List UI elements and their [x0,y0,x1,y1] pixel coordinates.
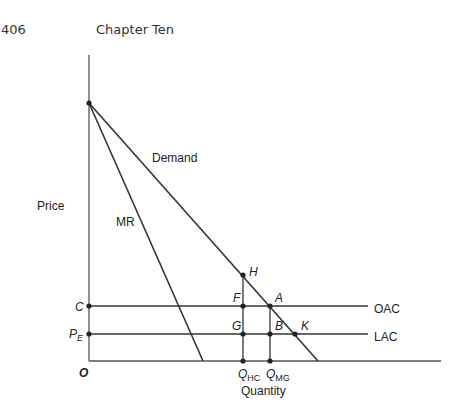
point-b [267,331,272,336]
point-qmg [267,358,272,363]
point-k [292,331,297,336]
f-label: F [233,291,241,305]
a-label: A [274,291,283,305]
demand-curve [89,103,318,361]
b-label: B [275,319,283,333]
qmg-label: QMG [266,367,290,383]
lac-label: LAC [374,330,398,344]
mr-label: MR [116,215,135,229]
point-c [86,303,91,308]
pe-label: PE [69,327,84,343]
point-qhc [240,358,245,363]
price-axis-label: Price [37,199,65,213]
point-f [240,303,245,308]
qhc-label: QHC [238,367,261,383]
k-label: K [301,319,310,333]
origin-label: O [79,366,89,380]
point-h [240,272,245,277]
mr-curve [89,103,203,361]
point-pe [86,331,91,336]
h-label: H [249,265,258,279]
g-label: G [232,319,241,333]
oac-label: OAC [374,302,400,316]
vertex-point [86,100,91,105]
point-a [267,303,272,308]
economics-diagram: Price Demand MR OAC LAC C PE O H F A G B… [0,0,457,410]
demand-label: Demand [152,151,197,165]
c-label: C [75,300,84,314]
quantity-axis-label: Quantity [241,384,286,398]
